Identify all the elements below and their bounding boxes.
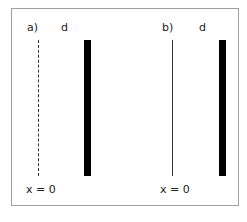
panel-a-dashed-line	[38, 40, 39, 176]
panel-b-label: b)	[162, 22, 173, 34]
panel-b-origin-label: x = 0	[160, 184, 190, 196]
panel-b-distance-label: d	[199, 22, 206, 34]
diagram-frame	[11, 8, 239, 206]
panel-a-wall-bar	[84, 40, 91, 176]
panel-a-distance-label: d	[61, 22, 68, 34]
panel-b-wall-bar	[219, 40, 226, 176]
panel-a-label: a)	[27, 22, 38, 34]
panel-b-solid-line	[172, 40, 173, 176]
panel-a-origin-label: x = 0	[26, 184, 56, 196]
